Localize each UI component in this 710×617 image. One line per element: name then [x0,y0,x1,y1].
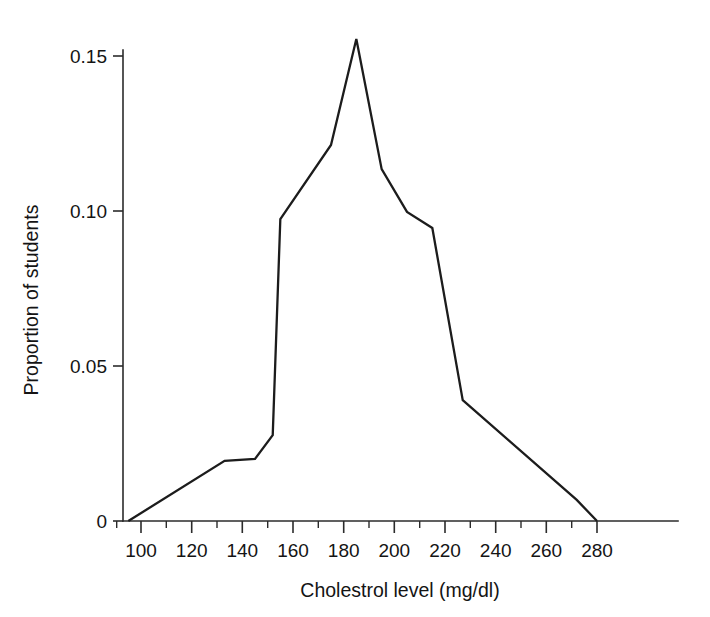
x-axis-ticks [117,521,597,533]
y-axis-title: Proportion of students [20,204,42,395]
y-tick-label-0-05: 0.05 [70,356,107,377]
x-tick-label-180: 180 [328,540,360,561]
x-tick-label-120: 120 [176,540,208,561]
x-tick-label-100: 100 [125,540,157,561]
x-tick-label-220: 220 [429,540,461,561]
x-tick-label-200: 200 [378,540,410,561]
x-tick-label-280: 280 [581,540,613,561]
y-tick-label-0-10: 0.10 [70,201,107,222]
x-tick-label-140: 140 [226,540,258,561]
data-series-line [128,39,597,521]
x-tick-label-260: 260 [530,540,562,561]
y-tick-label-0: 0 [96,511,107,532]
y-tick-label-0-15: 0.15 [70,46,107,67]
y-axis-ticks [113,56,123,521]
frequency-polygon-chart: 0 0.05 0.10 0.15 [0,0,710,617]
x-tick-label-240: 240 [480,540,512,561]
chart-figure: 0 0.05 0.10 0.15 [0,0,710,617]
x-axis-title: Cholestrol level (mg/dl) [300,579,499,601]
x-tick-label-160: 160 [277,540,309,561]
